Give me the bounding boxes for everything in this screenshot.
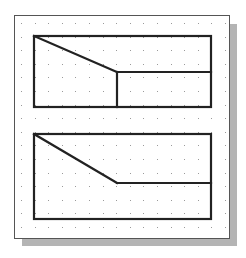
grid-dot [62,23,63,24]
grid-dot [116,213,117,214]
grid-dot [225,186,226,187]
grid-dot [184,132,185,133]
grid-dot [171,105,172,106]
grid-dot [62,64,63,65]
grid-dot [62,200,63,201]
grid-dot [116,227,117,228]
grid-dot [89,37,90,38]
grid-dot [130,200,131,201]
grid-dot [62,105,63,106]
grid-dot [184,105,185,106]
grid-dot [157,77,158,78]
grid-dot [35,227,36,228]
grid-dot [89,64,90,65]
grid-dot [143,23,144,24]
grid-dot [89,173,90,174]
grid-dot [157,132,158,133]
grid-dot [130,213,131,214]
grid-dot [143,77,144,78]
grid-dot [21,145,22,146]
grid-dot [130,227,131,228]
grid-dot [75,77,76,78]
grid-dot [198,91,199,92]
grid-dot [48,159,49,160]
grid-dot [171,64,172,65]
grid-dot [21,105,22,106]
grid-dot [143,227,144,228]
grid-dot [75,105,76,106]
grid-dot [198,227,199,228]
grid-dot [116,145,117,146]
grid-dot [184,91,185,92]
grid-dot [103,118,104,119]
grid-dot [184,23,185,24]
grid-dot [21,37,22,38]
grid-dot [225,91,226,92]
grid-dot [225,37,226,38]
grid-dot [143,213,144,214]
grid-dot [48,173,49,174]
grid-dot [171,200,172,201]
grid-dot [130,37,131,38]
grid-dot [143,145,144,146]
grid-dot [62,213,63,214]
grid-dot [225,159,226,160]
grid-dot [171,37,172,38]
grid-dot [103,50,104,51]
grid-dot [75,132,76,133]
grid-dot [48,23,49,24]
grid-dot [171,227,172,228]
grid-dot [184,64,185,65]
grid-dot [171,77,172,78]
grid-dot [171,145,172,146]
grid-dot [103,213,104,214]
grid-dot [21,23,22,24]
grid-dot [75,213,76,214]
grid-dot [35,173,36,174]
grid-dot [21,91,22,92]
grid-dot [143,186,144,187]
grid-dot [198,23,199,24]
grid-dot [171,213,172,214]
grid-dot [225,213,226,214]
grid-dot [89,200,90,201]
grid-dot [198,37,199,38]
grid-dot [130,132,131,133]
cad-drawing [0,0,246,258]
grid-dot [225,77,226,78]
grid-dot [198,173,199,174]
grid-dot [48,37,49,38]
grid-dot [198,105,199,106]
grid-dot [48,91,49,92]
grid-dot [143,50,144,51]
grid-dot [198,64,199,65]
grid-dot [198,159,199,160]
grid-dot [143,64,144,65]
grid-dot [184,186,185,187]
grid-dot [157,159,158,160]
grid-dot [48,77,49,78]
drawing-frame [15,16,230,239]
grid-dot [21,64,22,65]
grid-dot [62,186,63,187]
grid-dot [211,132,212,133]
grid-dot [21,132,22,133]
grid-dot [62,227,63,228]
grid-dot [89,23,90,24]
grid-dot [184,200,185,201]
grid-dot [130,50,131,51]
grid-dot [171,50,172,51]
grid-dot [171,132,172,133]
grid-dot [143,200,144,201]
grid-dot [143,118,144,119]
grid-dot [62,91,63,92]
grid-dot [62,118,63,119]
grid-dot [143,105,144,106]
grid-dot [198,186,199,187]
grid-dot [75,200,76,201]
grid-dot [62,77,63,78]
grid-dot [48,50,49,51]
grid-dot [157,118,158,119]
grid-dot [21,118,22,119]
grid-dot [116,64,117,65]
